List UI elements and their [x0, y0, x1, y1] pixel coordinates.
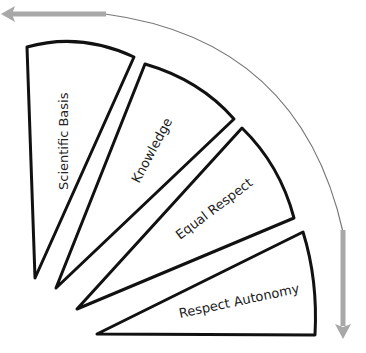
wedge-label: Scientific Basis	[56, 92, 71, 190]
fan-diagram: Scientific Basis Knowledge Equal Respect…	[0, 0, 366, 353]
arrow-down-head-icon	[335, 324, 351, 339]
diagram-canvas: Scientific Basis Knowledge Equal Respect…	[0, 0, 366, 353]
